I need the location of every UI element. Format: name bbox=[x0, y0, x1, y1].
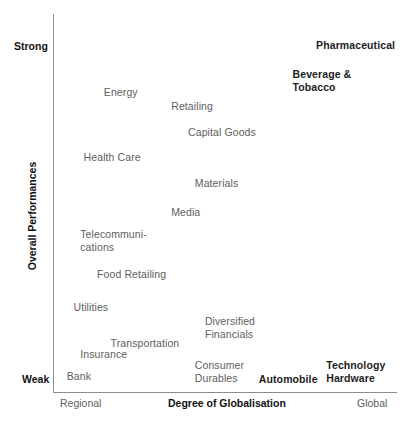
y-axis-low-label: Weak bbox=[22, 373, 49, 386]
data-point-label: Telecommuni- cations bbox=[80, 228, 147, 254]
data-point-label: Bank bbox=[67, 370, 91, 383]
data-point-label: Materials bbox=[195, 177, 239, 190]
data-point-label: Beverage & Tobacco bbox=[293, 68, 352, 94]
data-point-label: Automobile bbox=[259, 373, 318, 386]
x-axis-low-label: Regional bbox=[60, 397, 101, 410]
y-axis-line bbox=[53, 14, 54, 393]
data-point-label: Capital Goods bbox=[188, 126, 256, 139]
data-point-label: Food Retailing bbox=[97, 268, 166, 281]
x-axis-high-label: Global bbox=[357, 397, 387, 410]
data-point-label: Utilities bbox=[73, 301, 108, 314]
y-axis-title: Overall Performances bbox=[26, 136, 38, 296]
y-axis-high-label: Strong bbox=[14, 40, 48, 53]
data-point-label: Pharmaceutical bbox=[316, 39, 395, 52]
data-point-label: Technology Hardware bbox=[326, 359, 385, 385]
data-point-label: Media bbox=[171, 206, 200, 219]
data-point-label: Diversified Financials bbox=[205, 315, 255, 341]
data-point-label: Health Care bbox=[84, 151, 141, 164]
x-axis-title: Degree of Globalisation bbox=[168, 397, 286, 409]
data-point-label: Consumer Durables bbox=[195, 359, 244, 385]
data-point-label: Insurance bbox=[80, 348, 127, 361]
data-point-label: Retailing bbox=[171, 100, 213, 113]
x-axis-line bbox=[53, 392, 397, 393]
data-point-label: Energy bbox=[104, 86, 138, 99]
scatter-chart: Overall Performances Degree of Globalisa… bbox=[0, 0, 416, 426]
